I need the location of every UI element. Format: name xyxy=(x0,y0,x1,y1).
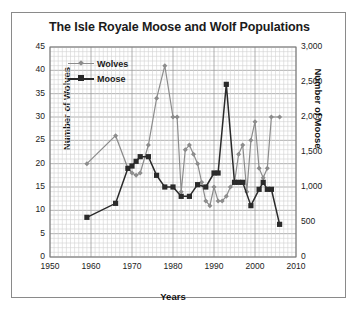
y-tick-left: 45 xyxy=(21,41,45,51)
x-tick: 2000 xyxy=(238,261,272,271)
chart-legend: WolvesMoose xyxy=(68,56,128,86)
chart-frame: The Isle Royale Moose and Wolf Populatio… xyxy=(11,12,346,298)
plot-area: Number of Wolves Number of Moose Years 0… xyxy=(50,47,296,257)
legend-label: Wolves xyxy=(97,59,128,69)
legend-label: Moose xyxy=(97,74,126,84)
y-tick-right: 2,000 xyxy=(301,111,331,121)
x-tick: 1960 xyxy=(74,261,108,271)
y-tick-left: 30 xyxy=(21,111,45,121)
y-tick-left: 25 xyxy=(21,134,45,144)
y-tick-left: 20 xyxy=(21,158,45,168)
legend-item-wolves: Wolves xyxy=(68,56,128,71)
y-tick-left: 15 xyxy=(21,181,45,191)
x-tick: 1980 xyxy=(156,261,190,271)
y-axis-label-right: Number of Moose xyxy=(313,59,324,159)
x-tick: 1990 xyxy=(197,261,231,271)
x-tick: 1970 xyxy=(115,261,149,271)
y-tick-right: 500 xyxy=(301,216,331,226)
legend-marker-moose xyxy=(68,74,94,84)
y-tick-right: 0 xyxy=(301,251,331,261)
chart-title: The Isle Royale Moose and Wolf Populatio… xyxy=(12,20,347,34)
x-tick: 2010 xyxy=(279,261,313,271)
legend-marker-wolves xyxy=(68,59,94,69)
y-tick-right: 2,500 xyxy=(301,76,331,86)
legend-item-moose: Moose xyxy=(68,71,128,86)
y-tick-left: 10 xyxy=(21,204,45,214)
x-tick: 1950 xyxy=(33,261,67,271)
y-tick-left: 35 xyxy=(21,88,45,98)
y-tick-left: 0 xyxy=(21,251,45,261)
y-tick-left: 40 xyxy=(21,64,45,74)
x-axis-label: Years xyxy=(50,291,296,302)
y-tick-right: 1,500 xyxy=(301,146,331,156)
y-tick-right: 3,000 xyxy=(301,41,331,51)
y-tick-left: 5 xyxy=(21,228,45,238)
y-tick-right: 1,000 xyxy=(301,181,331,191)
